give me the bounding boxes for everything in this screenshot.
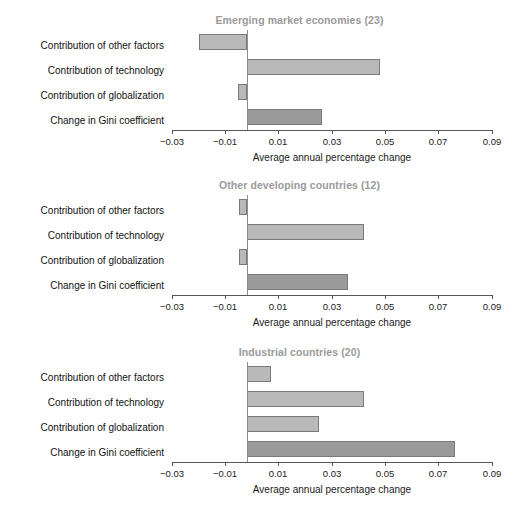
x-axis-tick	[492, 130, 493, 134]
x-axis-tick-label: 0.05	[355, 301, 415, 312]
x-axis-tick-label: 0.03	[302, 301, 362, 312]
x-axis-title: Average annual percentage change	[172, 317, 492, 328]
panel-title: Emerging market economies (23)	[0, 14, 527, 26]
x-axis-title: Average annual percentage change	[172, 152, 492, 163]
zero-reference-line	[247, 30, 248, 130]
x-axis-tick	[332, 295, 333, 299]
x-axis-tick-label: 0.01	[248, 136, 308, 147]
bar-other-factors	[239, 199, 247, 215]
bar-globalization	[239, 249, 247, 265]
x-axis-tick	[225, 130, 226, 134]
x-axis-tick	[438, 130, 439, 134]
bar-technology	[247, 224, 364, 240]
x-axis-tick	[492, 462, 493, 466]
x-axis-tick	[278, 462, 279, 466]
panel-title: Industrial countries (20)	[0, 346, 527, 358]
x-axis-tick	[332, 462, 333, 466]
x-axis-tick	[278, 295, 279, 299]
x-axis-tick-label: 0.07	[408, 468, 468, 479]
x-axis-tick-label: 0.05	[355, 468, 415, 479]
x-axis-tick-label: 0.09	[462, 468, 522, 479]
x-axis-tick-label: 0.07	[408, 136, 468, 147]
multi-panel-bar-chart: Emerging market economies (23) Contribut…	[0, 0, 527, 511]
panel-title: Other developing countries (12)	[0, 179, 527, 191]
category-label: Contribution of globalization	[0, 422, 164, 434]
x-axis-tick-label: 0.03	[302, 136, 362, 147]
category-label: Contribution of other factors	[0, 40, 164, 52]
bar-row	[172, 412, 492, 437]
bar-globalization	[238, 84, 247, 100]
x-axis-tick-label: 0.09	[462, 136, 522, 147]
category-label: Contribution of globalization	[0, 255, 164, 267]
bar-gini	[247, 441, 455, 457]
x-axis-tick	[225, 462, 226, 466]
category-label: Contribution of other factors	[0, 372, 164, 384]
chart-panel-emerging-market-economies: Emerging market economies (23) Contribut…	[0, 8, 527, 174]
category-label: Contribution of technology	[0, 397, 164, 409]
bar-row	[172, 220, 492, 245]
plot-area	[172, 30, 492, 130]
plot-area	[172, 195, 492, 295]
bar-technology	[247, 391, 364, 407]
x-axis-tick-label: 0.03	[302, 468, 362, 479]
x-axis-tick-label: 0.07	[408, 301, 468, 312]
x-axis-tick-label: −0.01	[195, 468, 255, 479]
zero-reference-line	[247, 362, 248, 462]
x-axis-tick-label: −0.03	[142, 468, 202, 479]
x-axis-tick	[172, 130, 173, 134]
chart-panel-industrial-countries: Industrial countries (20) Contribution o…	[0, 340, 527, 506]
x-axis-title: Average annual percentage change	[172, 484, 492, 495]
x-axis-tick	[225, 295, 226, 299]
bar-row	[172, 437, 492, 462]
x-axis-tick	[172, 295, 173, 299]
bar-row	[172, 362, 492, 387]
x-axis-tick-label: 0.05	[355, 136, 415, 147]
bar-gini	[247, 274, 348, 290]
bar-group	[172, 195, 492, 295]
x-axis-tick	[385, 462, 386, 466]
x-axis-tick-label: 0.01	[248, 301, 308, 312]
x-axis-tick	[492, 295, 493, 299]
bar-row	[172, 245, 492, 270]
chart-panel-other-developing-countries: Other developing countries (12) Contribu…	[0, 173, 527, 339]
bar-group	[172, 362, 492, 462]
x-axis-tick	[172, 462, 173, 466]
x-axis-tick	[438, 295, 439, 299]
bar-row	[172, 55, 492, 80]
x-axis-tick-label: −0.03	[142, 301, 202, 312]
plot-area	[172, 362, 492, 462]
x-axis-tick-label: −0.01	[195, 301, 255, 312]
category-label: Contribution of globalization	[0, 90, 164, 102]
bar-other-factors	[199, 34, 247, 50]
bar-row	[172, 30, 492, 55]
bar-other-factors	[247, 366, 271, 382]
bar-globalization	[247, 416, 319, 432]
x-axis-tick	[278, 130, 279, 134]
zero-reference-line	[247, 195, 248, 295]
bar-technology	[247, 59, 380, 75]
x-axis-tick	[438, 462, 439, 466]
bar-row	[172, 195, 492, 220]
category-label: Change in Gini coefficient	[0, 280, 164, 292]
bar-row	[172, 80, 492, 105]
category-label: Contribution of other factors	[0, 205, 164, 217]
category-label: Contribution of technology	[0, 65, 164, 77]
bar-gini	[247, 109, 322, 125]
bar-group	[172, 30, 492, 130]
bar-row	[172, 105, 492, 130]
x-axis-tick	[385, 130, 386, 134]
category-label: Contribution of technology	[0, 230, 164, 242]
x-axis-tick-label: −0.03	[142, 136, 202, 147]
bar-row	[172, 387, 492, 412]
bar-row	[172, 270, 492, 295]
x-axis-tick	[385, 295, 386, 299]
x-axis-tick-label: 0.09	[462, 301, 522, 312]
category-label: Change in Gini coefficient	[0, 115, 164, 127]
x-axis-tick-label: 0.01	[248, 468, 308, 479]
category-label: Change in Gini coefficient	[0, 447, 164, 459]
x-axis-tick	[332, 130, 333, 134]
x-axis-tick-label: −0.01	[195, 136, 255, 147]
